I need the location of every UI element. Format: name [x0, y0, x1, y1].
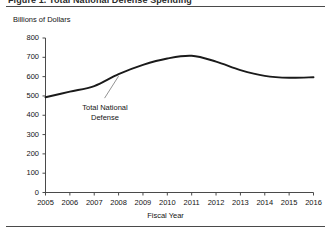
- x-axis-tick-label: 2016: [299, 198, 329, 207]
- bottom-divider-rule: [6, 226, 325, 227]
- y-axis-tick-label: 100: [13, 168, 39, 177]
- y-axis-tick-label: 800: [13, 33, 39, 42]
- series-line-total-national-defense: [46, 56, 314, 98]
- series-annotation-total-national-defense: Total National Defense: [63, 103, 147, 122]
- y-axis-tick-label: 500: [13, 91, 39, 100]
- y-axis-tick-label: 400: [13, 110, 39, 119]
- y-axis-tick-label: 300: [13, 130, 39, 139]
- y-axis-tick-label: 600: [13, 72, 39, 81]
- y-axis-tick-label: 0: [13, 188, 39, 197]
- figure-container: Figure 1. Total National Defense Spendin…: [0, 0, 331, 232]
- y-axis-tick-label: 200: [13, 149, 39, 158]
- x-axis-title: Fiscal Year: [0, 211, 331, 220]
- y-axis-tick-label: 700: [13, 52, 39, 61]
